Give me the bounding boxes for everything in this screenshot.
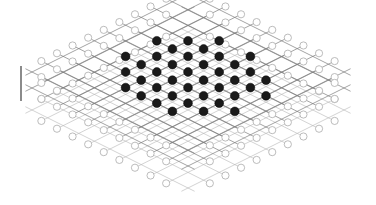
open-node xyxy=(85,119,92,126)
filled-node xyxy=(199,91,208,100)
open-node xyxy=(100,26,107,33)
filled-node xyxy=(168,76,177,85)
filled-node xyxy=(184,68,193,77)
open-node xyxy=(300,133,307,140)
filled-node xyxy=(184,36,193,45)
open-node xyxy=(116,18,123,25)
open-node xyxy=(163,142,170,149)
filled-node xyxy=(121,68,130,77)
filled-node xyxy=(121,83,130,92)
open-node xyxy=(100,64,107,71)
open-node xyxy=(100,42,107,49)
open-node xyxy=(237,49,244,56)
filled-node xyxy=(168,60,177,69)
open-node xyxy=(237,27,244,34)
open-node xyxy=(147,150,154,157)
open-node xyxy=(269,64,276,71)
filled-node xyxy=(137,91,146,100)
filled-node xyxy=(184,52,193,61)
open-node xyxy=(222,150,229,157)
open-node xyxy=(269,111,276,118)
open-node xyxy=(53,50,60,57)
open-node xyxy=(116,118,123,125)
filled-node xyxy=(199,107,208,116)
open-node xyxy=(206,33,213,40)
open-node xyxy=(53,103,60,110)
open-node xyxy=(116,156,123,163)
open-node xyxy=(253,18,260,25)
open-node xyxy=(269,149,276,156)
open-node xyxy=(269,42,276,49)
lattice-diagram xyxy=(0,0,376,205)
open-node xyxy=(163,180,170,187)
open-node xyxy=(85,50,92,57)
filled-node xyxy=(199,76,208,85)
filled-node xyxy=(152,99,161,108)
open-node xyxy=(284,34,291,41)
open-node xyxy=(284,72,291,79)
open-node xyxy=(300,58,307,65)
open-node xyxy=(147,3,154,10)
open-node xyxy=(253,118,260,125)
filled-node xyxy=(215,52,224,61)
open-node xyxy=(300,111,307,118)
filled-node xyxy=(230,107,239,116)
open-node xyxy=(315,125,322,132)
open-node xyxy=(284,103,291,110)
filled-node xyxy=(215,68,224,77)
open-node xyxy=(69,111,76,118)
open-node xyxy=(163,158,170,165)
open-node xyxy=(53,66,60,73)
filled-node xyxy=(152,36,161,45)
open-node xyxy=(131,142,138,149)
open-node xyxy=(38,95,45,102)
filled-node xyxy=(246,52,255,61)
filled-node xyxy=(168,107,177,116)
open-node xyxy=(300,42,307,49)
open-node xyxy=(206,158,213,165)
filled-node xyxy=(199,60,208,69)
filled-node xyxy=(246,68,255,77)
open-node xyxy=(269,26,276,33)
open-node xyxy=(100,111,107,118)
open-node xyxy=(222,172,229,179)
open-node xyxy=(237,11,244,18)
open-node xyxy=(315,87,322,94)
open-node xyxy=(131,11,138,18)
open-node xyxy=(206,142,213,149)
open-node xyxy=(85,103,92,110)
open-node xyxy=(284,141,291,148)
open-node xyxy=(38,79,45,86)
open-node xyxy=(222,134,229,141)
open-node xyxy=(53,87,60,94)
open-node xyxy=(315,50,322,57)
open-node xyxy=(222,3,229,10)
filled-node xyxy=(215,83,224,92)
open-node xyxy=(222,19,229,26)
open-node xyxy=(69,42,76,49)
open-node xyxy=(131,49,138,56)
open-node xyxy=(300,95,307,102)
open-node xyxy=(147,172,154,179)
open-node xyxy=(53,125,60,132)
filled-node xyxy=(215,99,224,108)
open-node xyxy=(253,156,260,163)
open-node xyxy=(38,57,45,64)
open-node xyxy=(147,134,154,141)
open-node xyxy=(100,127,107,134)
open-node xyxy=(163,11,170,18)
open-node xyxy=(237,164,244,171)
filled-node xyxy=(230,60,239,69)
open-node xyxy=(269,127,276,134)
open-node xyxy=(331,95,338,102)
filled-node xyxy=(262,76,271,85)
open-node xyxy=(206,180,213,187)
open-node xyxy=(116,134,123,141)
open-node xyxy=(253,134,260,141)
open-node xyxy=(253,34,260,41)
filled-node xyxy=(184,99,193,108)
filled-node xyxy=(137,76,146,85)
open-node xyxy=(131,164,138,171)
filled-node xyxy=(152,68,161,77)
filled-node xyxy=(230,76,239,85)
